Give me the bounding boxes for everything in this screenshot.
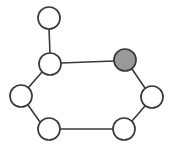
graph-node-ring-left[interactable] — [10, 85, 32, 107]
graph-edge-n1-n2 — [49, 29, 50, 53]
graph-node-ring-bottom-right[interactable] — [113, 118, 135, 140]
graph-node-pendant[interactable] — [38, 7, 60, 29]
graph-canvas — [0, 0, 174, 151]
graph-node-ring-right[interactable] — [141, 86, 163, 108]
graph-node-ring-top-right[interactable] — [114, 49, 136, 71]
graph-edge-n4-n5 — [132, 106, 145, 121]
graph-edge-n7-n2 — [28, 72, 42, 88]
graph-edge-n2-n3 — [61, 61, 114, 63]
graph-edge-n6-n7 — [28, 105, 40, 122]
graph-edge-n3-n4 — [132, 69, 145, 88]
graph-figure — [0, 0, 174, 151]
edge-layer — [28, 29, 145, 129]
node-layer — [10, 7, 163, 140]
graph-node-ring-top-left[interactable] — [39, 53, 61, 75]
graph-node-ring-bottom-left[interactable] — [38, 118, 60, 140]
